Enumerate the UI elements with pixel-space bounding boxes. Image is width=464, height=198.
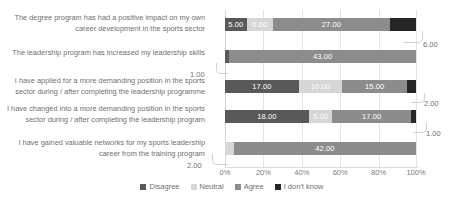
bar-segment-i-dont-know	[407, 80, 416, 93]
segment-value: 5.00	[228, 21, 243, 29]
bar: 18.00 5.00 17.00	[225, 110, 416, 123]
segment-value: 6.00	[252, 21, 267, 29]
legend-label: I don't know	[284, 183, 324, 191]
bar-segment-agree: 17.00	[332, 110, 411, 123]
legend-swatch-icon	[191, 184, 197, 190]
bar-segment-disagree: 17.00	[225, 80, 299, 93]
segment-value: 27.00	[322, 21, 341, 29]
bar-segment-agree: 43.00	[229, 50, 416, 63]
stacked-bar-chart: The degree program has had a positive im…	[0, 0, 464, 198]
legend-swatch-icon	[275, 184, 281, 190]
legend-label: Neutral	[200, 183, 224, 191]
legend-item-agree[interactable]: Agree	[235, 183, 264, 191]
category-label: The leadership program has increased my …	[0, 48, 205, 59]
segment-value: 42.00	[315, 145, 334, 153]
category-label: I have applied for a more demanding posi…	[0, 76, 205, 97]
segment-value: 17.00	[252, 83, 271, 91]
chart-row: The leadership program has increased my …	[0, 42, 464, 70]
category-label: I have gained valuable networks for my s…	[0, 138, 205, 159]
legend-label: Disagree	[149, 183, 179, 191]
bar-segment-i-dont-know	[411, 110, 416, 123]
legend-swatch-icon	[140, 184, 146, 190]
bar: 17.00 10.00 15.00	[225, 80, 416, 93]
leader-line	[212, 154, 228, 165]
legend-label: Agree	[244, 183, 264, 191]
category-label: The degree program has had a positive im…	[0, 13, 205, 34]
x-tick-label: 40%	[294, 168, 309, 177]
chart-row: The degree program has had a positive im…	[0, 10, 464, 40]
bar: 43.00	[225, 50, 416, 63]
bar-segment-disagree: 18.00	[225, 110, 309, 123]
segment-value: 15.00	[365, 83, 384, 91]
category-label: I have changed into a more demanding pos…	[0, 104, 205, 125]
bar-segment-neutral: 6.00	[247, 18, 273, 31]
segment-value: 10.00	[311, 83, 330, 91]
legend-swatch-icon	[235, 184, 241, 190]
chart-row: I have applied for a more demanding posi…	[0, 72, 464, 102]
bar-segment-neutral: 10.00	[299, 80, 342, 93]
bar-segment-agree: 27.00	[273, 18, 390, 31]
segment-value: 5.00	[313, 113, 328, 121]
legend-item-i-dont-know[interactable]: I don't know	[275, 183, 324, 191]
legend-item-neutral[interactable]: Neutral	[191, 183, 224, 191]
segment-value: 18.00	[257, 113, 276, 121]
bar-segment-disagree: 5.00	[225, 18, 247, 31]
bar: 42.00	[225, 142, 416, 155]
x-tick-label: 20%	[256, 168, 271, 177]
x-tick-label: 100%	[406, 168, 425, 177]
x-tick-label: 60%	[333, 168, 348, 177]
x-tick-label: 0%	[220, 168, 231, 177]
bar-segment-agree: 42.00	[234, 142, 416, 155]
bar-segment-i-dont-know	[390, 18, 416, 31]
chart-row: I have changed into a more demanding pos…	[0, 102, 464, 134]
chart-row: I have gained valuable networks for my s…	[0, 134, 464, 164]
legend-item-disagree[interactable]: Disagree	[140, 183, 179, 191]
bar-segment-neutral: 5.00	[309, 110, 332, 123]
x-axis: 0% 20% 40% 60% 80% 100%	[225, 168, 417, 180]
segment-value: 43.00	[313, 53, 332, 61]
bar: 5.00 6.00 27.00	[225, 18, 416, 31]
bar-segment-neutral	[225, 142, 234, 155]
x-tick-label: 80%	[371, 168, 386, 177]
chart-legend: Disagree Neutral Agree I don't know	[0, 183, 464, 191]
bar-segment-agree: 15.00	[342, 80, 407, 93]
segment-callout-value: 2.00	[187, 162, 202, 170]
segment-value: 17.00	[362, 113, 381, 121]
